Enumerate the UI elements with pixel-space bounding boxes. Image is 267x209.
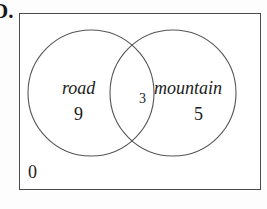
set-label-mountain: mountain xyxy=(154,79,222,97)
question-label: D. xyxy=(0,1,13,22)
count-intersection: 3 xyxy=(139,92,146,106)
set-label-road: road xyxy=(62,79,95,97)
count-mountain-only: 5 xyxy=(194,105,203,123)
venn-diagram-figure: D. road 9 mountain 5 3 0 xyxy=(0,0,267,209)
count-outside-sets: 0 xyxy=(28,163,37,181)
count-road-only: 9 xyxy=(74,105,83,123)
